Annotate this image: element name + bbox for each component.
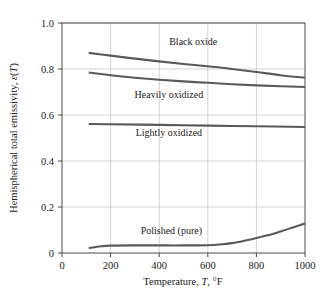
x-axis-title-suffix: , °F bbox=[207, 276, 222, 287]
x-tick-label-400: 400 bbox=[151, 260, 167, 271]
series-lines bbox=[89, 53, 305, 248]
x-tick-labels: 02004006008001000 bbox=[59, 260, 315, 271]
series-line-black-oxide bbox=[89, 53, 305, 78]
x-tick-label-1000: 1000 bbox=[295, 260, 316, 271]
series-label-polished-pure: Polished (pure) bbox=[141, 225, 202, 237]
x-tick-label-600: 600 bbox=[200, 260, 216, 271]
y-tick-label-0.6: 0.6 bbox=[41, 110, 54, 121]
emissivity-chart-figure: 00.20.40.60.81.0 02004006008001000 Black… bbox=[0, 0, 325, 304]
x-tick-label-200: 200 bbox=[103, 260, 119, 271]
y-tick-labels: 00.20.40.60.81.0 bbox=[41, 18, 55, 259]
x-axis-title-prefix: Temperature, bbox=[143, 276, 201, 287]
chart-canvas: 00.20.40.60.81.0 02004006008001000 Black… bbox=[0, 0, 325, 304]
x-tick-label-800: 800 bbox=[249, 260, 265, 271]
y-axis-title-prefix: Hemispherical total emissivity, bbox=[8, 80, 19, 213]
x-tick-label-0: 0 bbox=[59, 260, 64, 271]
y-tick-label-0.8: 0.8 bbox=[41, 64, 54, 75]
series-label-lightly-oxidized: Lightly oxidized bbox=[136, 127, 202, 138]
y-tick-label-1.0: 1.0 bbox=[41, 18, 54, 29]
y-tick-label-0.4: 0.4 bbox=[41, 156, 55, 167]
y-axis-title-close: ) bbox=[8, 63, 20, 67]
y-axis-title: Hemispherical total emissivity, ε(T) bbox=[8, 63, 20, 213]
y-tick-label-0: 0 bbox=[49, 248, 54, 259]
series-label-heavily-oxidized: Heavily oxidized bbox=[135, 89, 204, 100]
y-tick-label-0.2: 0.2 bbox=[41, 202, 54, 213]
series-label-black-oxide: Black oxide bbox=[169, 36, 218, 47]
axis-ticks bbox=[58, 23, 305, 257]
x-axis-title: Temperature, T, °F bbox=[143, 276, 222, 287]
